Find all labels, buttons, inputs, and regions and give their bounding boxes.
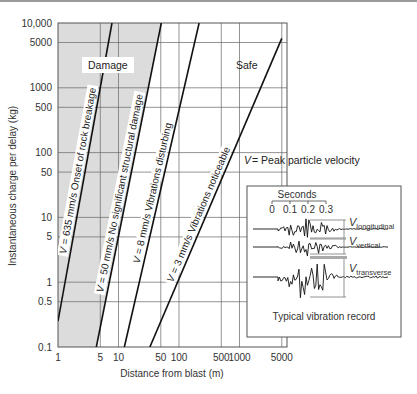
y-tick-label: 10,000 — [21, 18, 52, 29]
trace-separator — [310, 256, 347, 259]
inset-title: Typical vibration record — [273, 311, 376, 322]
time-tick-label: 0.3 — [319, 204, 333, 215]
time-tick-label: 0.2 — [301, 204, 315, 215]
y-tick-label: 50 — [41, 167, 53, 178]
y-tick-label: 10 — [41, 212, 53, 223]
y-tick-label: 1 — [46, 277, 52, 288]
seconds-label: Seconds — [278, 189, 317, 200]
series-label-group: V = 3 mm/s Vibrations noticeable — [164, 143, 233, 286]
time-tick-label: 0 — [269, 204, 275, 215]
x-tick-label: 1000 — [228, 352, 251, 363]
x-tick-labels: 15105010050010005000 — [55, 352, 293, 363]
y-tick-label: 100 — [35, 147, 52, 158]
peak-velocity-definition: V= Peak particle velocity — [244, 154, 360, 166]
series-label: V = 3 mm/s Vibrations noticeable — [165, 145, 233, 284]
time-tick-label: 0.1 — [283, 204, 297, 215]
y-tick-label: 5000 — [30, 37, 53, 48]
y-tick-label: 1000 — [30, 82, 53, 93]
vibration-record-inset: Seconds 00.10.20.3 Vlongitudinal Vvertic… — [247, 186, 401, 337]
y-tick-label: 0.1 — [38, 342, 52, 353]
x-tick-label: 100 — [171, 352, 188, 363]
x-tick-label: 5 — [98, 352, 104, 363]
safe-region-label: Safe — [236, 59, 258, 71]
x-tick-label: 10 — [113, 352, 125, 363]
y-axis-label: Instantaneous charge per delay (kg) — [7, 106, 18, 266]
y-tick-labels: 10,000500010005001005010510.50.1 — [21, 18, 52, 353]
blast-vibration-chart: 15105010050010005000 10,0005000100050010… — [0, 0, 417, 394]
x-tick-label: 1 — [55, 352, 61, 363]
y-tick-label: 0.5 — [38, 296, 52, 307]
damage-region-label: Damage — [88, 59, 128, 71]
x-tick-label: 50 — [155, 352, 167, 363]
y-tick-label: 500 — [35, 102, 52, 113]
y-tick-label: 5 — [46, 231, 52, 242]
x-axis-label: Distance from blast (m) — [120, 368, 223, 379]
x-tick-label: 5000 — [271, 352, 294, 363]
